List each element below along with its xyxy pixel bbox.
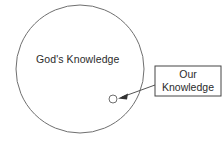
callout-box-label-line-1: Our xyxy=(156,68,220,81)
outer-circle-label: God's Knowledge xyxy=(36,53,119,65)
inner-circle-our-knowledge xyxy=(109,95,117,103)
outer-circle-gods-knowledge xyxy=(16,5,144,133)
diagram-canvas: God's Knowledge Our Knowledge xyxy=(0,0,224,141)
callout-box-label-line-2: Knowledge xyxy=(156,81,220,94)
callout-box-label: Our Knowledge xyxy=(156,68,220,93)
arrow-head-icon xyxy=(118,94,128,100)
